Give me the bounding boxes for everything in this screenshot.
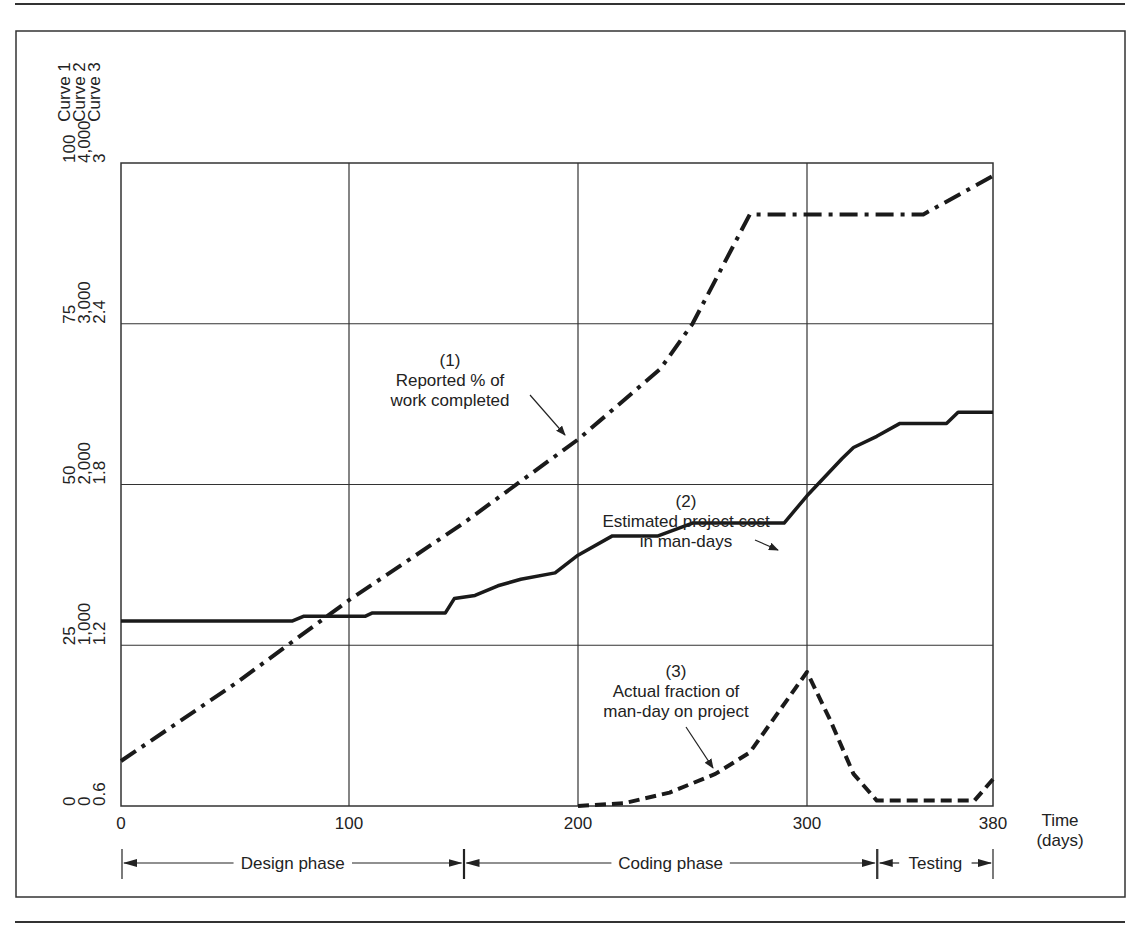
x-axis-label-line1: Time xyxy=(1041,811,1078,830)
annotation-curve3-line2: man-day on project xyxy=(603,702,749,721)
phase-label: Design phase xyxy=(241,854,345,873)
annotation-curve1: (1) Reported % of work completed xyxy=(389,351,565,435)
y-axis-headers: Curve 1 Curve 2 Curve 3 xyxy=(55,62,104,122)
x-tick-label: 0 xyxy=(116,814,125,833)
y-tick-label: 3 xyxy=(90,154,109,163)
phase-design-phase: Design phase xyxy=(122,849,464,879)
annotation-curve1-arrow xyxy=(530,395,565,435)
x-axis-tick-labels: 0100200300380 xyxy=(116,814,1007,833)
series-curve-2 xyxy=(121,412,993,621)
annotation-curve3-number: (3) xyxy=(666,662,687,681)
figure-frame xyxy=(16,31,1125,897)
phase-label: Coding phase xyxy=(618,854,723,873)
annotation-curve2-number: (2) xyxy=(676,492,697,511)
series-layer xyxy=(121,176,993,806)
y-tick-label: 2.4 xyxy=(90,300,109,324)
annotation-curve1-number: (1) xyxy=(440,351,461,370)
x-tick-label: 300 xyxy=(793,814,821,833)
phase-testing: Testing xyxy=(878,849,993,879)
phase-coding-phase: Coding phase xyxy=(465,849,877,879)
annotation-curve3: (3) Actual fraction of man-day on projec… xyxy=(603,662,749,768)
y-tick-label: 1.2 xyxy=(90,622,109,646)
y-tick-label: 0.6 xyxy=(90,782,109,806)
x-tick-label: 380 xyxy=(979,814,1007,833)
gridlines xyxy=(121,163,993,806)
x-axis-label-line2: (days) xyxy=(1036,831,1083,850)
annotation-curve3-line1: Actual fraction of xyxy=(613,682,740,701)
annotation-curve2-line2: in man-days xyxy=(640,532,733,551)
plot-area xyxy=(121,163,993,806)
phase-bar: Design phaseCoding phaseTesting xyxy=(122,849,993,879)
annotation-curve2: (2) Estimated project cost in man-days xyxy=(602,492,778,551)
annotation-curve1-line2: work completed xyxy=(389,391,509,410)
y-axis-tick-labels: 000.6251,0001.2502,0001.8753,0002.41004,… xyxy=(60,120,109,806)
annotation-curve3-arrow xyxy=(686,727,713,768)
y-tick-label: 1.8 xyxy=(90,461,109,485)
x-tick-label: 100 xyxy=(335,814,363,833)
y-header-curve3: Curve 3 xyxy=(85,62,104,122)
series-curve-1 xyxy=(121,176,993,761)
phase-label: Testing xyxy=(908,854,962,873)
annotation-curve2-line1: Estimated project cost xyxy=(602,512,770,531)
annotation-curve1-line1: Reported % of xyxy=(396,371,505,390)
x-axis-label: Time (days) xyxy=(1036,811,1083,850)
x-tick-label: 200 xyxy=(564,814,592,833)
annotation-curve2-arrow xyxy=(755,540,778,550)
project-curves-chart: Curve 1 Curve 2 Curve 3 000.6251,0001.25… xyxy=(0,0,1142,928)
